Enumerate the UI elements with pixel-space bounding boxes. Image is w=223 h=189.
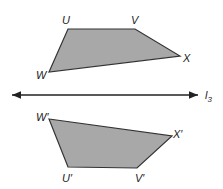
label-v-prime: V′ — [135, 172, 145, 184]
label-x-prime: X′ — [172, 128, 183, 140]
quadrilateral-image — [49, 119, 172, 168]
label-v: V — [131, 14, 140, 26]
label-line: l3 — [205, 89, 212, 104]
label-x: X — [182, 52, 191, 64]
label-w-prime: W′ — [36, 111, 49, 123]
label-u-prime: U′ — [62, 172, 73, 184]
label-w: W — [36, 69, 48, 81]
label-u: U — [62, 14, 70, 26]
line-subscript: 3 — [207, 95, 212, 104]
quadrilateral-uvxw — [49, 29, 180, 72]
reflection-diagram: U V X W l3 W′ X′ V′ U′ — [0, 0, 223, 189]
